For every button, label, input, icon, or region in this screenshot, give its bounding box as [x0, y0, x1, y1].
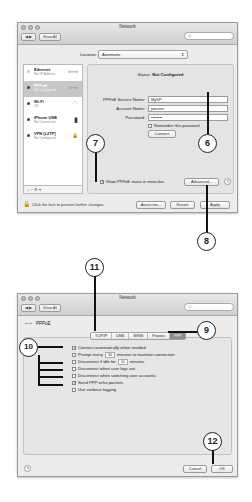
- advanced-button[interactable]: Advanced...: [184, 178, 219, 186]
- option-prompt-every[interactable]: Prompt every30minutes to maintain connec…: [72, 352, 175, 358]
- revert-button[interactable]: Revert: [170, 201, 195, 209]
- back-icon[interactable]: ◀: [25, 35, 28, 39]
- status-dot: [27, 102, 30, 105]
- add-remove-gear-buttons[interactable]: + − ⚙ ▾: [23, 186, 83, 194]
- option-connect-automatically[interactable]: Connect automatically when needed: [72, 345, 146, 350]
- checkbox[interactable]: [72, 360, 76, 364]
- callout-6-line: [207, 92, 209, 134]
- service-item-ethernet[interactable]: Ethernet Not IP Address ⟺: [24, 65, 82, 81]
- callout-10-tick-b: [38, 369, 63, 371]
- tab-dns[interactable]: DNS: [112, 333, 129, 339]
- account-name-field[interactable]: joeuser: [148, 105, 228, 112]
- ppp-options-pane: Connect automatically when needed Prompt…: [23, 337, 232, 455]
- lock-row: 🔓Click the lock to prevent further chang…: [23, 200, 104, 207]
- help-button[interactable]: ?: [24, 465, 31, 472]
- password-field[interactable]: ••••••••: [148, 114, 228, 121]
- ok-button[interactable]: OK: [211, 465, 233, 473]
- password-label: Password:: [90, 115, 145, 120]
- detail-pane: Status: Not Configured PPPoE Service Nam…: [87, 64, 234, 194]
- location-select[interactable]: Automatic ⇕: [98, 50, 188, 59]
- title-bar: Network ◀ ▶ Show All Q: [18, 294, 237, 316]
- apply-button[interactable]: Apply: [200, 201, 230, 209]
- back-forward-button[interactable]: ◀ ▶: [21, 304, 36, 312]
- title-bar: Network ◀ ▶ Show All Q: [18, 23, 237, 45]
- callout-11: 11: [85, 258, 104, 277]
- option-disconnect-switch-user[interactable]: Disconnect when switching user accounts: [72, 373, 156, 378]
- service-name-row: PPPoE Service Name:: [88, 96, 145, 104]
- service-header-label: PPPoE: [36, 321, 51, 326]
- updown-chevron-icon: ⇕: [181, 51, 184, 58]
- iphone-icon: ▮: [74, 116, 78, 124]
- option-disconnect-idle[interactable]: Disconnect if idle for10minutes: [72, 359, 144, 365]
- cancel-button[interactable]: Cancel: [183, 465, 207, 473]
- callout-10: 10: [19, 338, 38, 357]
- tab-wins[interactable]: WINS: [129, 333, 148, 339]
- option-send-echo[interactable]: Send PPP echo packets: [72, 380, 123, 385]
- checkbox[interactable]: [72, 374, 76, 378]
- forward-icon[interactable]: ▶: [29, 35, 32, 39]
- option-label: Disconnect when user logs out: [78, 366, 135, 371]
- show-all-button[interactable]: Show All: [39, 33, 61, 41]
- window-title: Network: [18, 295, 237, 300]
- connect-button[interactable]: Connect: [148, 130, 176, 138]
- status-dot: [27, 118, 30, 121]
- service-header: ⟺PPPoE: [25, 321, 51, 326]
- callout-10-tick-a: [38, 362, 63, 364]
- service-item-pppoe[interactable]: PPPoE Not Configured ⟺: [24, 81, 82, 97]
- option-disconnect-logout[interactable]: Disconnect when user logs out: [72, 366, 135, 371]
- location-value: Automatic: [102, 52, 121, 57]
- remember-password-checkbox[interactable]: [148, 124, 152, 128]
- option-label: Disconnect when switching user accounts: [78, 373, 156, 378]
- show-status-label: Show PPPoE status in menu bar: [106, 179, 164, 184]
- callout-12-line: [212, 450, 214, 464]
- checkbox[interactable]: [72, 388, 76, 392]
- status-row: Status: Not Configured: [88, 72, 233, 77]
- idle-minutes-field[interactable]: 10: [118, 359, 128, 365]
- help-button[interactable]: ?: [224, 178, 231, 185]
- lock-text: Click the lock to prevent further change…: [32, 202, 104, 207]
- account-name-row: Account Name:: [88, 105, 145, 113]
- checkbox[interactable]: [72, 367, 76, 371]
- show-status-checkbox[interactable]: [100, 180, 104, 184]
- callout-12: 12: [203, 432, 222, 451]
- search-input[interactable]: Q: [184, 303, 234, 311]
- callout-11-line: [94, 276, 96, 331]
- callout-8-line: [206, 185, 208, 233]
- option-suffix: minutes to maintain connection: [117, 352, 175, 357]
- prompt-minutes-field[interactable]: 30: [105, 352, 115, 358]
- password-row: Password:: [88, 114, 145, 122]
- callout-6: 6: [198, 134, 217, 153]
- forward-icon[interactable]: ▶: [29, 306, 32, 310]
- checkbox[interactable]: [72, 353, 76, 357]
- lock-icon[interactable]: 🔓: [23, 201, 30, 207]
- remember-password-row[interactable]: Remember this password: [148, 123, 199, 128]
- back-forward-button[interactable]: ◀ ▶: [21, 33, 36, 41]
- option-suffix: minutes: [130, 359, 145, 364]
- status-dot: [27, 134, 30, 137]
- ethernet-arrows-icon: ⟺: [68, 84, 78, 92]
- show-all-button[interactable]: Show All: [39, 304, 61, 312]
- service-item-vpn[interactable]: VPN (L2TP) Not Configured 🔒: [24, 129, 82, 145]
- pppoe-service-name-field[interactable]: MySP: [148, 96, 228, 103]
- search-input[interactable]: Q: [184, 32, 234, 40]
- back-icon[interactable]: ◀: [25, 306, 28, 310]
- callout-10-line: [38, 346, 63, 348]
- assist-me-button[interactable]: Assist me...: [136, 201, 166, 209]
- network-window-main: Network ◀ ▶ Show All Q Location: Automat…: [17, 22, 238, 213]
- service-list: Ethernet Not IP Address ⟺ PPPoE Not Conf…: [23, 64, 83, 186]
- tab-ppp[interactable]: PPP: [170, 333, 186, 339]
- checkbox[interactable]: [72, 346, 76, 350]
- tab-bar: TCP/IP DNS WINS Proxies PPP: [90, 332, 186, 340]
- service-name-label: PPPoE Service Name:: [90, 97, 145, 102]
- callout-8: 8: [197, 232, 216, 251]
- show-status-row[interactable]: Show PPPoE status in menu bar: [100, 179, 164, 184]
- window-title: Network: [18, 24, 237, 29]
- service-item-iphone-usb[interactable]: iPhone USB Not Connected ▮: [24, 113, 82, 129]
- tab-tcpip[interactable]: TCP/IP: [91, 333, 112, 339]
- status-label: Status:: [138, 72, 151, 77]
- checkbox[interactable]: [72, 381, 76, 385]
- callout-9-line: [168, 331, 198, 333]
- service-item-wifi[interactable]: Wi-Fi Off ◠: [24, 97, 82, 113]
- tab-proxies[interactable]: Proxies: [148, 333, 170, 339]
- option-verbose-logging[interactable]: Use verbose logging: [72, 387, 116, 392]
